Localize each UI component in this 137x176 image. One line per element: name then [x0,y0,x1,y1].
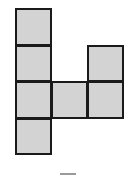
square-cell [15,118,52,156]
square-cell [87,81,124,119]
square-cell [51,81,88,119]
square-cell [15,81,52,119]
square-cell [15,8,52,46]
square-cell [87,45,124,83]
caption-fragment [60,173,76,175]
square-cell [15,45,52,83]
